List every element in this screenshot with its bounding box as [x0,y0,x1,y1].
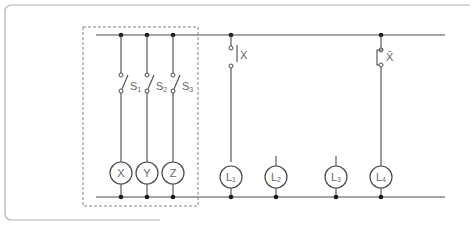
switch-terminal [171,73,175,77]
contact-terminal [229,46,233,50]
contact-x-label: X [240,49,248,61]
contact-terminal [229,64,233,68]
frame-border [5,5,470,220]
relay-coil-z-label: Z [170,167,177,179]
switch-terminal [119,89,123,93]
switch-terminal [145,73,149,77]
contact-x-bar-label: X̄ [386,51,394,63]
relay-circuit-diagram: S1 X S2 Y S3 Z X [0,0,474,225]
relay-coil-y-label: Y [143,167,151,179]
branch-l4: X̄ L4 [370,33,394,200]
junction-node [274,195,279,200]
switch-s1-blade[interactable] [122,75,128,89]
branch-l2: L2 [265,156,287,199]
switch-s3-label: S3 [182,80,193,93]
switch-s3-blade[interactable] [174,75,180,89]
junction-node [334,195,339,200]
junction-node [171,195,176,200]
switch-terminal [171,89,175,93]
switch-s2-label: S2 [156,80,167,93]
branch-l3: L3 [325,156,347,199]
branch-l1: X L1 [220,33,248,200]
switch-terminal [145,89,149,93]
contact-terminal [379,63,383,67]
branch-s3-z: S3 Z [162,33,193,200]
relay-coil-x-label: X [117,167,125,179]
switch-s2-blade[interactable] [148,75,154,89]
switch-terminal [119,73,123,77]
switch-s1-label: S1 [130,80,141,93]
junction-node [119,195,124,200]
junction-node [379,195,384,200]
junction-node [229,195,234,200]
junction-node [145,195,150,200]
